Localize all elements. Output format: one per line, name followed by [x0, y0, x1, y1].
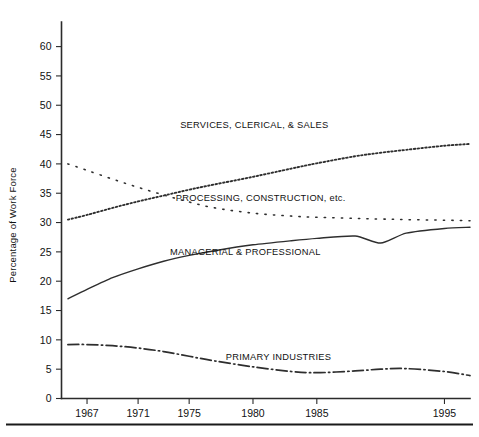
x-tick-label: 1985	[305, 407, 329, 419]
y-axis-title: Percentage of Work Force	[7, 167, 18, 283]
x-tick-label: 1971	[126, 407, 150, 419]
series-annotations: SERVICES, CLERICAL, & SALESPROCESSING, C…	[170, 120, 345, 362]
series-label-0: SERVICES, CLERICAL, & SALES	[180, 120, 328, 130]
y-tick-label: 5	[46, 363, 52, 375]
y-tick-label: 60	[40, 40, 52, 52]
x-tick-label: 1995	[433, 407, 457, 419]
y-tick-label: 35	[40, 187, 52, 199]
x-tick-label: 1980	[241, 407, 265, 419]
y-tick-label: 20	[40, 275, 52, 287]
x-tick-label: 1967	[75, 407, 99, 419]
employment-trends-line-chart: Percentage of Work Force 051015202530354…	[0, 0, 479, 437]
y-tick-label: 15	[40, 304, 52, 316]
y-tick-label: 50	[40, 99, 52, 111]
series-line-1	[68, 164, 470, 221]
y-axis-ticks: 051015202530354045505560	[40, 40, 62, 404]
series-label-1: PROCESSING, CONSTRUCTION, etc.	[176, 193, 346, 203]
series-line-2	[68, 227, 470, 299]
chart-figure: Percentage of Work Force 051015202530354…	[0, 0, 479, 437]
y-tick-label: 40	[40, 158, 52, 170]
y-tick-label: 25	[40, 246, 52, 258]
y-tick-label: 10	[40, 334, 52, 346]
series-line-0	[68, 144, 470, 220]
x-tick-label: 1975	[177, 407, 201, 419]
series-label-2: MANAGERIAL & PROFESSIONAL	[170, 247, 321, 257]
x-axis-ticks: 196719711975198019851995	[75, 399, 456, 419]
series-paths	[68, 144, 470, 376]
y-tick-label: 0	[46, 392, 52, 404]
series-label-3: PRIMARY INDUSTRIES	[226, 352, 331, 362]
y-tick-label: 55	[40, 70, 52, 82]
y-tick-label: 45	[40, 128, 52, 140]
y-tick-label: 30	[40, 216, 52, 228]
y-axis-title-group: Percentage of Work Force	[7, 167, 18, 283]
